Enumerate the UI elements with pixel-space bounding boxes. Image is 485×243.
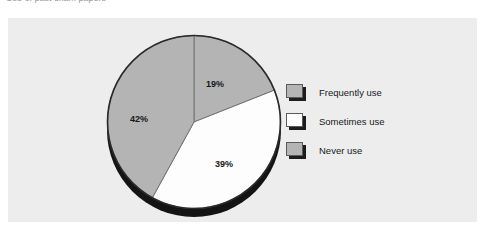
- legend-swatch-frequently-use: [286, 84, 308, 101]
- chart-panel: 19% 42% 39% Frequently use Sometimes use…: [8, 18, 477, 222]
- pie-label-frequently-use: 19%: [206, 79, 224, 89]
- legend-swatch-fill: [286, 113, 303, 127]
- caption-text: Use of past exam papers: [6, 0, 226, 4]
- legend-swatch-fill: [286, 142, 303, 156]
- legend-swatch-never-use: [286, 142, 308, 159]
- pie-chart-svg: [99, 27, 289, 217]
- legend-label-sometimes-use: Sometimes use: [319, 116, 384, 127]
- chart-legend: Frequently use Sometimes use Never use: [286, 78, 456, 165]
- caption-strip: Use of past exam papers: [6, 0, 226, 4]
- legend-item-sometimes-use: Sometimes use: [286, 107, 456, 136]
- legend-item-never-use: Never use: [286, 136, 456, 165]
- legend-swatch-fill: [286, 84, 303, 98]
- legend-swatch-sometimes-use: [286, 113, 308, 130]
- legend-label-never-use: Never use: [319, 145, 362, 156]
- pie-label-sometimes-use: 39%: [215, 159, 233, 169]
- legend-label-frequently-use: Frequently use: [319, 87, 382, 98]
- pie-chart: [99, 27, 289, 217]
- legend-item-frequently-use: Frequently use: [286, 78, 456, 107]
- pie-label-never-use: 42%: [130, 114, 148, 124]
